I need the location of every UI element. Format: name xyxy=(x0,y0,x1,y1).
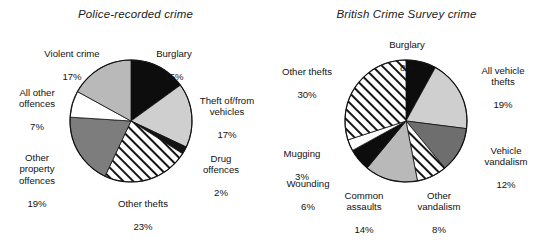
left-label-other-property-offences-pct: 19% xyxy=(27,198,46,209)
right-label-all-vehicle-thefts-pct: 19% xyxy=(493,99,512,110)
right-label-other-vandalism: Other vandalism 8% xyxy=(404,190,474,236)
right-label-burglary-pct: 8% xyxy=(400,62,414,73)
left-label-other-thefts: Other thefts 23% xyxy=(98,198,188,232)
right-label-other-thefts-pct: 30% xyxy=(297,89,316,100)
right-label-wounding-pct: 6% xyxy=(301,201,315,212)
right-label-common-assaults: Common assaults 14% xyxy=(331,190,397,236)
left-label-other-thefts-text: Other thefts xyxy=(118,198,168,209)
right-label-all-vehicle-thefts: All vehicle thefts 19% xyxy=(470,65,536,111)
left-label-all-other-offences: All other offences 7% xyxy=(4,87,70,133)
right-label-other-vandalism-text: Other vandalism xyxy=(417,190,460,212)
right-label-all-vehicle-thefts-text: All vehicle thefts xyxy=(481,65,524,87)
right-label-vehicle-vandalism: Vehicle vandalism 12% xyxy=(474,145,538,191)
left-label-theft-of-from-vehicles: Theft of/from vehicles 17% xyxy=(186,95,268,141)
left-label-violent-crime-text: Violent crime xyxy=(44,48,99,59)
pie-charts-figure: Police-recorded crime xyxy=(0,0,542,244)
left-label-violent-crime: Violent crime 17% xyxy=(24,48,120,82)
left-label-other-property-offences: Other property offences 19% xyxy=(4,152,70,209)
left-label-burglary: Burglary 15% xyxy=(134,48,214,82)
right-label-vehicle-vandalism-pct: 12% xyxy=(496,179,515,190)
right-label-wounding-text: Wounding xyxy=(286,178,329,189)
right-label-mugging-text: Mugging xyxy=(284,148,321,159)
left-label-all-other-offences-pct: 7% xyxy=(30,121,44,132)
right-label-other-thefts-text: Other thefts xyxy=(282,66,332,77)
left-label-other-property-offences-text: Other property offences xyxy=(19,152,55,186)
left-label-other-thefts-pct: 23% xyxy=(133,221,152,232)
left-label-burglary-pct: 15% xyxy=(164,71,183,82)
panel-british-crime-survey-crime: British Crime Survey crime xyxy=(271,0,542,244)
left-chart-title: Police-recorded crime xyxy=(0,8,271,20)
left-label-drug-offences-text: Drug offences xyxy=(203,153,239,175)
left-label-violent-crime-pct: 17% xyxy=(62,71,81,82)
right-pie-chart xyxy=(343,58,469,184)
left-label-all-other-offences-text: All other offences xyxy=(19,87,55,109)
left-label-drug-offences: Drug offences 2% xyxy=(190,153,252,199)
right-label-vehicle-vandalism-text: Vehicle vandalism xyxy=(484,145,527,167)
left-label-theft-of-from-vehicles-text: Theft of/from vehicles xyxy=(200,95,254,117)
right-chart-title: British Crime Survey crime xyxy=(271,8,542,20)
left-label-drug-offences-pct: 2% xyxy=(214,187,228,198)
left-label-burglary-text: Burglary xyxy=(156,48,192,59)
right-label-burglary-text: Burglary xyxy=(389,39,425,50)
right-label-other-vandalism-pct: 8% xyxy=(432,224,446,235)
right-label-other-thefts: Other thefts 30% xyxy=(271,66,343,100)
right-label-common-assaults-text: Common assaults xyxy=(345,190,384,212)
right-label-common-assaults-pct: 14% xyxy=(354,224,373,235)
panel-police-recorded-crime: Police-recorded crime xyxy=(0,0,271,244)
right-pie-slices xyxy=(345,60,467,182)
right-pie-svg xyxy=(343,58,469,184)
right-label-burglary: Burglary 8% xyxy=(367,39,447,73)
left-label-theft-of-from-vehicles-pct: 17% xyxy=(217,129,236,140)
